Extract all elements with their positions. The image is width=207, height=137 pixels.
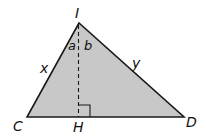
diagram-canvas: I C H D x y a b [0,0,207,137]
triangle-icd [27,23,184,117]
side-label-x: x [39,60,49,76]
vertex-label-i: I [75,5,79,21]
triangle-diagram: I C H D x y a b [0,0,207,137]
vertex-label-c: C [13,118,23,134]
side-label-y: y [131,55,141,71]
angle-label-b: b [84,38,92,53]
angle-label-a: a [68,38,76,53]
vertex-label-d: D [186,114,197,130]
vertex-label-h: H [73,119,84,135]
